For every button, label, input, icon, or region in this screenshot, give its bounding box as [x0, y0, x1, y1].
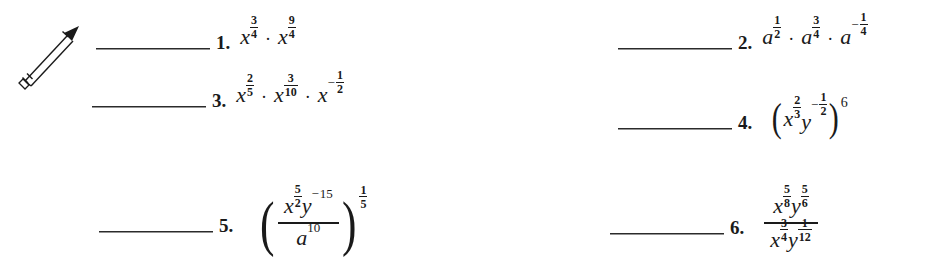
answer-blank-6[interactable]: [610, 233, 724, 234]
problem-number-2: 2.: [738, 33, 752, 52]
multiplication-dot: ·: [827, 30, 833, 48]
base-x: x: [318, 84, 328, 106]
base-a: a: [840, 26, 851, 48]
exponent-negative-1-4: −14: [851, 11, 867, 37]
expression-5: ( x52y−15 a10 ) 15: [257, 190, 367, 252]
fraction-6: x58y56 x34y112: [764, 190, 818, 256]
exponent-10: 10: [307, 221, 320, 234]
exponent-3-4: 34: [250, 14, 258, 40]
right-paren: ): [342, 206, 356, 240]
base-x: x: [236, 84, 246, 106]
exponent-negative-15: −15: [311, 187, 332, 200]
exponent-2-5: 25: [246, 72, 254, 98]
expression-6: x58y56 x34y112: [764, 190, 818, 256]
exponent-negative-1-2: −12: [328, 69, 344, 95]
base-a: a: [762, 26, 773, 48]
problem-2: 2. a12 · a34 · a−14: [618, 24, 868, 50]
minus-sign: −: [328, 76, 335, 89]
fraction-numerator: x52y−15: [278, 190, 339, 222]
left-paren: (: [772, 106, 782, 130]
problem-1: 1. x34 · x94: [96, 24, 296, 50]
base-x: x: [274, 84, 284, 106]
answer-blank-5[interactable]: [99, 231, 213, 232]
problem-5: 5. ( x52y−15 a10 ) 15: [99, 190, 367, 252]
exponent-5-8: 58: [783, 183, 791, 209]
base-x: x: [240, 26, 250, 48]
exponent-negative-1-2: −12: [811, 91, 827, 117]
problem-3: 3. x25 · x310 · x−12: [92, 82, 344, 108]
answer-blank-1[interactable]: [96, 48, 210, 49]
problem-number-1: 1.: [216, 33, 230, 52]
expression-3: x25 · x310 · x−12: [236, 82, 344, 108]
exponent-1-2: 12: [773, 14, 781, 40]
problem-number-6: 6.: [730, 218, 744, 237]
problem-number-4: 4.: [738, 113, 752, 132]
problem-6: 6. x58y56 x34y112: [610, 190, 818, 256]
problem-number-5: 5.: [219, 216, 233, 235]
problem-number-3: 3.: [212, 91, 226, 110]
expression-1: x34 · x94: [240, 24, 296, 50]
exponent-9-4: 94: [288, 14, 296, 40]
left-paren: (: [260, 206, 274, 240]
fraction-5: x52y−15 a10: [278, 190, 339, 252]
base-a: a: [801, 26, 812, 48]
fraction-denominator: a10: [290, 224, 326, 252]
answer-blank-4[interactable]: [618, 128, 732, 129]
minus-sign: −: [311, 187, 318, 200]
expression-2: a12 · a34 · a−14: [762, 24, 867, 50]
fraction-denominator: x34y112: [764, 224, 818, 256]
minus-sign: −: [851, 18, 858, 31]
minus-sign: −: [811, 98, 818, 111]
multiplication-dot: ·: [261, 88, 267, 106]
answer-blank-3[interactable]: [92, 106, 206, 107]
exponent-3-4: 34: [780, 217, 788, 243]
right-paren: ): [829, 106, 839, 130]
multiplication-dot: ·: [265, 30, 271, 48]
problem-4: 4. ( x23y−12 ) 6: [618, 104, 848, 130]
multiplication-dot: ·: [305, 88, 311, 106]
outer-exponent-6: 6: [841, 96, 848, 110]
outer-exponent-1-5: 15: [359, 184, 367, 210]
exponent-3-10: 310: [284, 72, 298, 98]
base-x: x: [278, 26, 288, 48]
multiplication-dot: ·: [788, 30, 794, 48]
exponent-3-4: 34: [812, 14, 820, 40]
expression-4: ( x23y−12 ) 6: [770, 104, 848, 130]
exponent-1-12: 112: [798, 217, 812, 243]
answer-blank-2[interactable]: [618, 48, 732, 49]
worksheet: 1. x34 · x94 3. x25 · x310 · x−12 5. ( x…: [0, 0, 945, 273]
exponent-5-2: 52: [294, 183, 302, 209]
exponent-5-6: 56: [801, 183, 809, 209]
